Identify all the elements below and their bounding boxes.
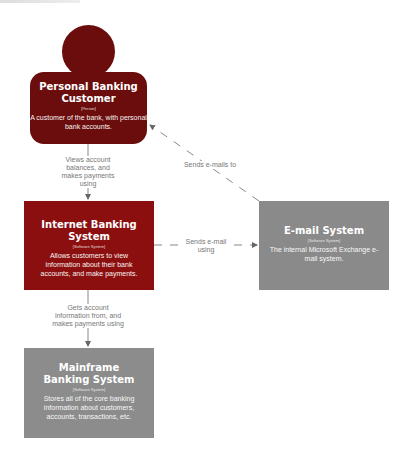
email-tag: [Software System] [259,238,389,243]
ibs-title: Internet Banking System [24,219,154,243]
mainframe-title: Mainframe Banking System [24,362,154,386]
edge-label-sends-emails-to: Sends e-mails to [175,161,245,169]
ibs-tag: [Software System] [24,244,154,249]
customer-tag: [Person] [30,106,147,111]
mainframe-description: Stores all of the core banking informati… [24,394,154,421]
mainframe-node[interactable]: Mainframe Banking System [Software Syste… [24,348,154,438]
edge-label-views-account: Views account balances, and makes paymen… [55,156,121,188]
edge-label-sends-email: Sends e-mail using [183,238,229,254]
edge-label-gets-account-info: Gets account information from, and makes… [52,304,124,328]
mainframe-tag: [Software System] [24,387,154,392]
customer-node[interactable]: Personal Banking Customer [Person] A cus… [30,72,147,144]
ibs-description: Allows customers to view information abo… [24,251,154,278]
email-system-node[interactable]: E-mail System [Software System] The inte… [259,201,389,290]
customer-title: Personal Banking Customer [30,81,147,105]
email-description: The internal Microsoft Exchange e-mail s… [259,245,389,263]
person-head-shape [62,25,115,78]
customer-description: A customer of the bank, with personal ba… [30,113,147,131]
internet-banking-node[interactable]: Internet Banking System [Software System… [24,201,154,290]
email-title: E-mail System [259,225,389,237]
